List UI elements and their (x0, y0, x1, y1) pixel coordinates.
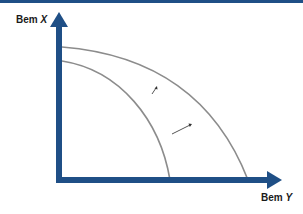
outer-frontier-curve (62, 47, 248, 180)
shift-arrow-lower-icon (172, 124, 192, 135)
horizontal-axis-label-variable: Y (285, 192, 292, 203)
vertical-axis-arrowhead-icon (50, 12, 68, 27)
horizontal-axis-label: Bem Y (261, 192, 292, 203)
horizontal-axis-label-prefix: Bem (261, 192, 283, 203)
vertical-axis-label-prefix: Bem (16, 14, 38, 25)
ppf-diagram (0, 0, 303, 214)
horizontal-axis-arrowhead-icon (267, 171, 282, 189)
shift-arrow-upper-icon (152, 86, 158, 94)
vertical-axis (50, 12, 68, 183)
vertical-axis-label: Bem X (16, 14, 47, 25)
inner-frontier-curve (62, 61, 170, 180)
vertical-axis-label-variable: X (40, 14, 47, 25)
